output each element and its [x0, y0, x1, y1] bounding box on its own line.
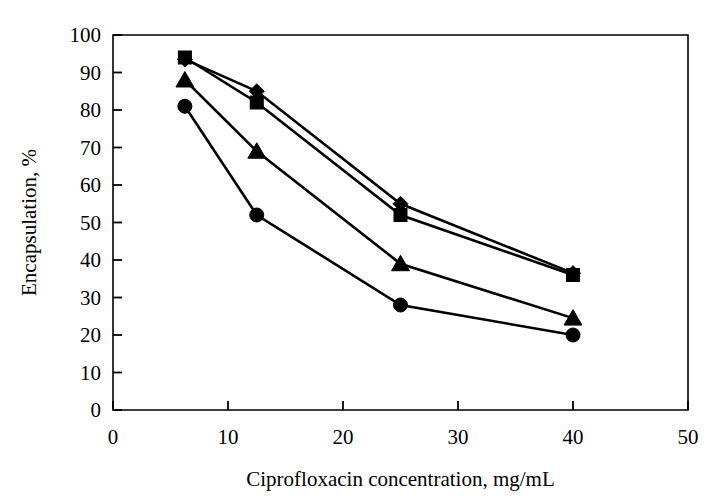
marker-circle [178, 99, 192, 113]
y-tick-label: 30 [80, 286, 101, 310]
x-tick-label: 50 [678, 425, 699, 449]
y-tick-label: 40 [80, 248, 101, 272]
y-tick-label: 90 [80, 61, 101, 85]
series-line [185, 59, 573, 273]
figure-container: 01020304050 0102030405060708090100 Cipro… [0, 0, 723, 496]
marker-circle [394, 298, 408, 312]
series-circle [178, 99, 580, 342]
y-tick-label: 20 [80, 323, 101, 347]
frame-border [113, 35, 688, 410]
series-line [185, 58, 573, 276]
marker-circle [566, 328, 580, 342]
x-tick-label: 10 [218, 425, 239, 449]
y-tick-label: 70 [80, 136, 101, 160]
chart-canvas: 01020304050 0102030405060708090100 Cipro… [0, 0, 723, 496]
x-axis-ticks [113, 401, 688, 410]
x-tick-label: 0 [108, 425, 119, 449]
y-axis-ticks [113, 35, 122, 410]
marker-triangle [176, 72, 194, 87]
x-tick-label: 40 [563, 425, 584, 449]
x-tick-label: 30 [448, 425, 469, 449]
marker-circle [250, 208, 264, 222]
y-tick-label: 0 [91, 398, 102, 422]
x-axis-tick-labels: 01020304050 [108, 425, 699, 449]
y-tick-label: 80 [80, 98, 101, 122]
y-tick-label: 50 [80, 211, 101, 235]
data-series-group [176, 51, 582, 342]
x-tick-label: 20 [333, 425, 354, 449]
y-tick-label: 60 [80, 173, 101, 197]
y-tick-label: 100 [70, 23, 102, 47]
y-tick-label: 10 [80, 361, 101, 385]
x-axis-title: Ciprofloxacin concentration, mg/mL [246, 467, 555, 491]
y-axis-title: Encapsulation, % [17, 149, 41, 296]
y-axis-tick-labels: 0102030405060708090100 [70, 23, 102, 422]
plot-frame [113, 35, 688, 410]
